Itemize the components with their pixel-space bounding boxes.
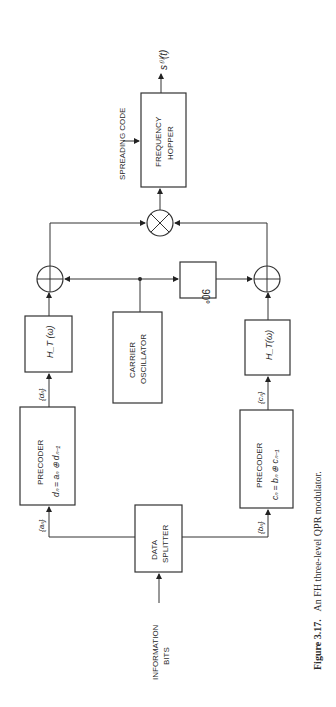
top-adder-to-mixer <box>50 223 145 266</box>
carrier-oscillator-block: CARRIER OSCILLATOR <box>113 312 162 403</box>
output-signal-label: s⁽ⁱ⁾(t) <box>158 50 169 70</box>
svg-text:90°: 90° <box>200 289 211 304</box>
phase-shift-90-block: 90° <box>180 262 216 304</box>
filter-top-block: H_T (ω) <box>25 316 72 372</box>
a-sequence-label: {aₙ} <box>37 519 46 532</box>
b-sequence-label: {bₙ} <box>256 521 265 534</box>
svg-text:HOPPER: HOPPER <box>166 126 175 160</box>
bottom-adder-to-mixer <box>175 223 267 266</box>
svg-text:FREQUENCY: FREQUENCY <box>154 116 163 167</box>
svg-text:BITS: BITS <box>162 647 171 665</box>
svg-text:H_T (ω): H_T (ω) <box>45 325 55 358</box>
svg-text:PRECODER: PRECODER <box>36 439 45 485</box>
svg-text:SPLITTER: SPLITTER <box>161 525 170 563</box>
mixer-icon <box>147 210 173 236</box>
svg-text:OSCILLATOR: OSCILLATOR <box>139 334 148 384</box>
caption-text: An FH three-level QPR modulator. <box>312 471 323 611</box>
svg-text:DATA: DATA <box>150 539 159 560</box>
a-path <box>49 507 135 537</box>
filter-bottom-block: H_T(ω) <box>245 320 290 375</box>
precoder-c-block: PRECODER cₙ = bₙ ⊕ cₙ₋₁ <box>240 410 293 508</box>
data-splitter-block: DATA SPLITTER <box>135 505 182 572</box>
caption-number: Figure 3.17. <box>312 619 323 670</box>
svg-text:PRECODER: PRECODER <box>255 442 264 488</box>
spreading-code-label: SPREADING CODE <box>118 108 127 180</box>
svg-text:INFORMATION: INFORMATION <box>151 624 160 680</box>
svg-text:CARRIER: CARRIER <box>128 342 137 378</box>
d-sequence-label: {dₙ} <box>37 388 46 401</box>
figure-caption: Figure 3.17. An FH three-level QPR modul… <box>312 471 323 670</box>
information-bits-label: INFORMATION BITS <box>151 624 171 680</box>
adder-bottom-icon <box>254 266 280 292</box>
precoder-d-block: PRECODER dₙ = aₙ ⊕ dₙ₋₁ <box>20 407 75 505</box>
svg-text:H_T(ω): H_T(ω) <box>264 330 274 360</box>
svg-text:Figure 3.17. An FH three: Figure 3.17. An FH three-level QPR modul… <box>312 471 323 670</box>
svg-text:cₙ = bₙ ⊕ cₙ₋₁: cₙ = bₙ ⊕ cₙ₋₁ <box>270 449 280 500</box>
c-sequence-label: {cₙ} <box>256 391 265 404</box>
fh-qpr-modulator-diagram: INFORMATION BITS DATA SPLITTER {aₙ} {bₙ}… <box>0 0 336 707</box>
svg-text:dₙ = aₙ ⊕ dₙ₋₁: dₙ = aₙ ⊕ dₙ₋₁ <box>51 445 61 497</box>
adder-top-icon <box>37 266 63 292</box>
frequency-hopper-block: FREQUENCY HOPPER <box>141 93 186 187</box>
